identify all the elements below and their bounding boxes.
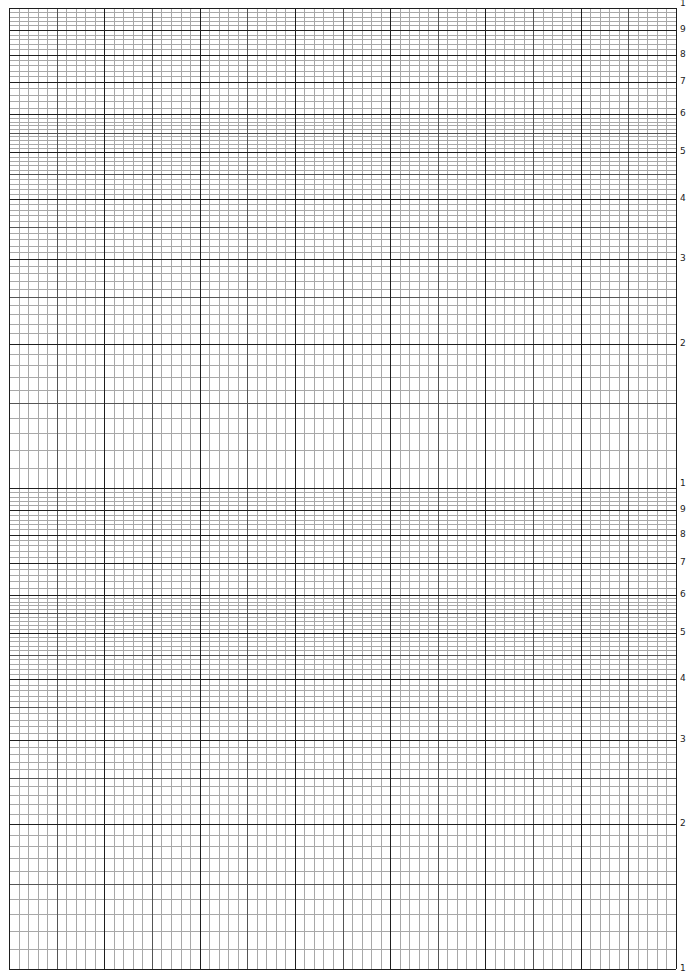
y-axis-label: 3 — [680, 735, 686, 744]
y-axis-label: 7 — [680, 558, 686, 567]
y-axis-label: 1 — [680, 479, 686, 488]
y-axis-label: 1 — [680, 0, 686, 8]
y-axis-label: 4 — [680, 674, 686, 683]
y-axis-label: 8 — [680, 50, 686, 59]
y-axis-label: 9 — [680, 25, 686, 34]
y-axis-label: 2 — [680, 819, 686, 828]
semilog-graph-paper — [0, 0, 692, 974]
major-gridlines — [9, 8, 677, 970]
y-axis-label: 6 — [680, 590, 686, 599]
y-axis-label: 2 — [680, 339, 686, 348]
y-axis-label: 6 — [680, 109, 686, 118]
y-axis-label: 5 — [680, 628, 686, 637]
y-axis-label: 7 — [680, 77, 686, 86]
y-axis-label: 4 — [680, 194, 686, 203]
y-axis-label: 8 — [680, 530, 686, 539]
y-axis-label: 9 — [680, 505, 686, 514]
y-axis-label: 3 — [680, 254, 686, 263]
y-axis-label: 1 — [680, 964, 686, 973]
y-axis-label: 5 — [680, 147, 686, 156]
